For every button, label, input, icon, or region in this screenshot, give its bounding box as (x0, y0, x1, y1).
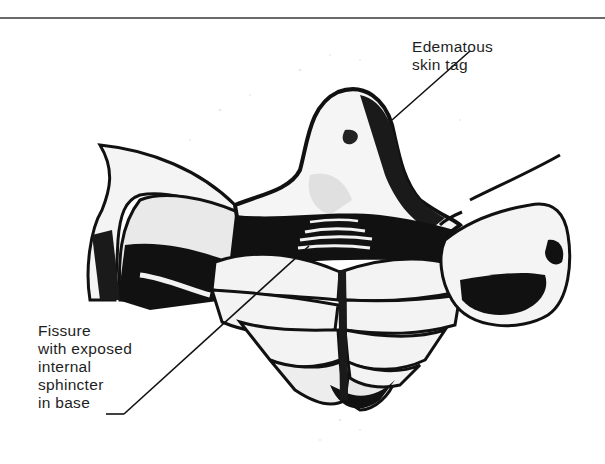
fissure-label-line-3: internal (38, 358, 132, 376)
fissure-label-line-4: sphincter (38, 376, 132, 394)
anal-folds (212, 254, 460, 410)
skin-tag-label-line-1: Edematous (412, 38, 493, 56)
fissure-label: Fissure with exposed internal sphincter … (38, 322, 132, 412)
right-retracting-finger (440, 155, 570, 326)
skin-tag-label-line-2: skin tag (412, 56, 493, 74)
fissure-label-line-1: Fissure (38, 322, 132, 340)
skin-tag-label: Edematous skin tag (412, 38, 493, 74)
fissure-label-line-5: in base (38, 394, 132, 412)
fissure-label-line-2: with exposed (38, 340, 132, 358)
